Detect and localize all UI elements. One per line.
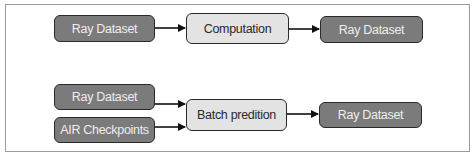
- row2-output-ray-dataset: Ray Dataset: [319, 102, 422, 128]
- row1-computation: Computation: [186, 13, 289, 44]
- row1-input-ray-dataset: Ray Dataset: [54, 15, 155, 42]
- row2-input-air-checkpoints: AIR Checkpoints: [54, 117, 155, 143]
- row1-output-ray-dataset: Ray Dataset: [320, 16, 423, 43]
- row2-batch-prediction: Batch predition: [186, 99, 287, 131]
- row2-input-ray-dataset: Ray Dataset: [54, 84, 155, 110]
